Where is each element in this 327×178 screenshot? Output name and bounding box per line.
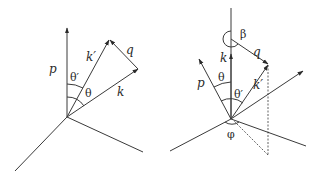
right-label-q: q [253, 45, 261, 59]
right-label-beta: β [240, 28, 246, 41]
right-diagram: β q k p θ θ′ k′ φ [170, 8, 306, 155]
right-label-p: p [197, 76, 205, 90]
right-label-k-prime: k′ [253, 78, 263, 92]
left-theta-prime-arc [67, 84, 83, 88]
left-diagram: p k′ q k θ′ θ [15, 28, 143, 171]
left-label-theta: θ [85, 87, 92, 100]
right-label-theta-prime: θ′ [234, 88, 244, 101]
right-label-k: k [220, 51, 227, 65]
right-beta-arc-2 [231, 44, 238, 47]
right-label-phi: φ [227, 128, 235, 141]
left-axis-lower-right [67, 117, 143, 152]
right-q-vector [231, 39, 268, 64]
left-axis-lower-left [15, 117, 67, 171]
right-beta-arc [223, 31, 231, 47]
left-label-theta-prime: θ′ [70, 71, 80, 84]
left-label-q: q [126, 43, 134, 57]
left-label-k: k [117, 85, 124, 99]
vector-diagram: p k′ q k θ′ θ β q k p θ θ′ k′ φ [0, 0, 327, 178]
left-q-vector [110, 40, 138, 69]
right-label-theta: θ [218, 71, 225, 84]
left-label-p: p [49, 62, 57, 76]
left-label-k-prime: k′ [86, 50, 96, 64]
right-axis-lower-left [170, 119, 231, 151]
right-axis-lower-right [231, 119, 306, 146]
